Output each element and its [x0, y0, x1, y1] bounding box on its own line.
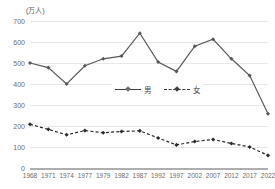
- legend-item-male[interactable]: 男: [115, 84, 151, 95]
- data-point-marker: [174, 143, 178, 147]
- x-tick-label: 1977: [78, 172, 92, 179]
- x-tick-label: 1987: [133, 172, 147, 179]
- x-tick-label: 1992: [151, 172, 165, 179]
- legend-item-female[interactable]: 女: [164, 84, 200, 95]
- data-point-marker: [138, 129, 142, 133]
- data-point-marker: [101, 131, 105, 135]
- line-chart: (万人) 0100200300400500600700 196819711974…: [0, 0, 275, 189]
- legend-label-male: 男: [144, 84, 151, 95]
- series-line: [30, 124, 268, 155]
- legend-label-female: 女: [193, 84, 200, 95]
- chart-legend: 男 女: [112, 83, 203, 96]
- data-point-marker: [193, 139, 197, 143]
- legend-swatch-male-icon: [115, 86, 141, 94]
- data-point-marker: [101, 57, 105, 61]
- series-line: [30, 33, 268, 114]
- data-point-marker: [266, 112, 270, 116]
- data-point-marker: [266, 153, 270, 157]
- x-tick-label: 1982: [114, 172, 128, 179]
- x-axis-tick-labels: 1968197119741977197919821987199219972002…: [30, 172, 268, 186]
- data-point-marker: [83, 129, 87, 133]
- series-male: [28, 31, 270, 116]
- x-tick-label: 2017: [242, 172, 256, 179]
- x-tick-label: 1997: [169, 172, 183, 179]
- x-tick-label: 2007: [206, 172, 220, 179]
- x-tick-label: 1974: [59, 172, 73, 179]
- data-point-marker: [248, 145, 252, 149]
- data-point-marker: [229, 141, 233, 145]
- data-point-marker: [119, 129, 123, 133]
- series-female: [28, 122, 270, 157]
- data-point-marker: [46, 127, 50, 131]
- legend-swatch-female-icon: [164, 86, 190, 94]
- x-tick-label: 2022: [261, 172, 275, 179]
- data-point-marker: [28, 61, 32, 65]
- x-tick-label: 1971: [41, 172, 55, 179]
- data-point-marker: [211, 137, 215, 141]
- data-point-marker: [65, 133, 69, 137]
- data-point-marker: [28, 122, 32, 126]
- x-tick-label: 1968: [23, 172, 37, 179]
- x-tick-label: 1979: [96, 172, 110, 179]
- data-point-marker: [156, 136, 160, 140]
- x-tick-label: 2012: [224, 172, 238, 179]
- x-tick-label: 2002: [188, 172, 202, 179]
